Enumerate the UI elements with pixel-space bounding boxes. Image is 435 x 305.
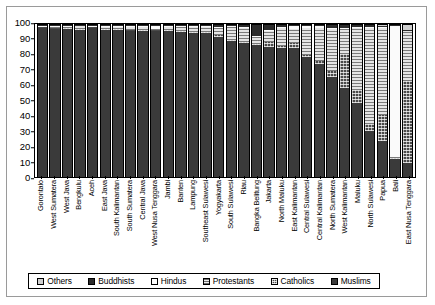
bar-segment <box>302 28 311 55</box>
bar-column[interactable] <box>251 24 262 177</box>
legend-item[interactable]: Hindus <box>151 277 186 285</box>
x-axis-tick-mark <box>168 176 169 179</box>
x-axis-tick: Gorontalo <box>36 179 47 271</box>
bar-column[interactable] <box>213 24 224 177</box>
bar-segment <box>189 26 198 27</box>
x-axis-tick-mark <box>206 176 207 179</box>
x-axis-tick: North Sulawesi <box>365 179 376 271</box>
bar-segment <box>151 25 160 29</box>
bar-segment <box>264 24 273 25</box>
x-axis-tick-label: Banten <box>177 180 184 203</box>
bar-segment <box>227 27 236 40</box>
x-axis-tick-mark <box>41 176 42 179</box>
bar-segment <box>315 64 324 177</box>
bar-column[interactable] <box>351 24 362 177</box>
bar-column[interactable] <box>37 24 48 177</box>
bar-segment <box>214 28 223 35</box>
bar-column[interactable] <box>137 24 148 177</box>
bar-column[interactable] <box>175 24 186 177</box>
bar-column[interactable] <box>200 24 211 177</box>
x-axis-tick: West Sumatera <box>48 179 59 271</box>
bar-column[interactable] <box>74 24 85 177</box>
bar-column[interactable] <box>301 24 312 177</box>
bar-segment <box>63 25 72 26</box>
bar-column[interactable] <box>62 24 73 177</box>
bar-segment <box>214 27 223 29</box>
x-axis-tick-label: East Nusa Tenggara <box>405 180 412 244</box>
bar-column[interactable] <box>226 24 237 177</box>
bar-segment <box>38 24 47 25</box>
bar-segment <box>138 30 147 32</box>
x-axis: GorontaloWest SumateraWest JavaBengkuluA… <box>34 179 416 271</box>
bar-column[interactable] <box>87 24 98 177</box>
x-axis-tick: Lampung <box>188 179 199 271</box>
x-axis-tick-mark <box>105 176 106 179</box>
bar-segment <box>75 26 84 29</box>
x-axis-tick-mark <box>295 176 296 179</box>
bar-column[interactable] <box>150 24 161 177</box>
bar-segment <box>201 26 210 27</box>
bar-column[interactable] <box>339 24 350 177</box>
bar-segment <box>340 24 349 25</box>
x-axis-tick: East Java <box>99 179 110 271</box>
bar-column[interactable] <box>402 24 413 177</box>
legend-swatch-others <box>37 278 44 285</box>
x-axis-tick: Central Sulawesi <box>302 179 313 271</box>
x-axis-tick-mark <box>307 176 308 179</box>
bar-segment <box>189 24 198 25</box>
bar-segment <box>352 103 361 178</box>
bar-segment <box>352 25 361 26</box>
legend-item[interactable]: Catholics <box>271 277 315 285</box>
bar-segment <box>189 33 198 177</box>
bar-column[interactable] <box>389 24 400 177</box>
legend-label: Muslims <box>341 277 371 285</box>
bar-segment <box>390 158 399 159</box>
bar-segment <box>126 24 135 25</box>
x-axis-tick: South Sulawesi <box>226 179 237 271</box>
bar-column[interactable] <box>49 24 60 177</box>
bar-column[interactable] <box>288 24 299 177</box>
bar-column[interactable] <box>125 24 136 177</box>
bar-segment <box>239 25 248 27</box>
bar-column[interactable] <box>377 24 388 177</box>
bar-segment <box>252 45 261 177</box>
bar-segment <box>390 157 399 158</box>
legend-item[interactable]: Muslims <box>331 277 371 285</box>
bar-segment <box>113 25 122 26</box>
bar-column[interactable] <box>314 24 325 177</box>
x-axis-tick-label: Jambi <box>164 180 171 199</box>
bar-segment <box>264 30 273 31</box>
x-axis-tick: Central Kalimantan <box>314 179 325 271</box>
bar-segment <box>352 27 361 90</box>
bar-column[interactable] <box>238 24 249 177</box>
x-axis-tick-label: West Java <box>63 180 70 213</box>
bar-segment <box>164 25 173 26</box>
bar-segment <box>289 24 298 25</box>
bar-column[interactable] <box>188 24 199 177</box>
legend-label: Hindus <box>161 277 186 285</box>
bar-column[interactable] <box>326 24 337 177</box>
x-axis-tick-label: Maluku <box>354 180 361 203</box>
bar-series-container <box>35 24 415 177</box>
bar-segment <box>75 29 84 30</box>
bar-segment <box>289 26 298 29</box>
bar-segment <box>252 24 261 25</box>
bar-segment <box>138 24 147 25</box>
bar-segment <box>277 27 286 46</box>
bar-column[interactable] <box>276 24 287 177</box>
bar-column[interactable] <box>112 24 123 177</box>
legend-item[interactable]: Others <box>37 277 72 285</box>
bar-column[interactable] <box>263 24 274 177</box>
bar-segment <box>340 54 349 88</box>
bar-segment <box>101 27 110 29</box>
bar-column[interactable] <box>364 24 375 177</box>
bar-column[interactable] <box>163 24 174 177</box>
x-axis-tick-mark <box>219 176 220 179</box>
bar-column[interactable] <box>100 24 111 177</box>
bar-segment <box>126 27 135 30</box>
legend-item[interactable]: Buddhists <box>88 277 134 285</box>
bar-segment <box>340 28 349 54</box>
x-axis-tick-label: Papua <box>380 180 387 201</box>
x-axis-tick-mark <box>269 176 270 179</box>
legend-item[interactable]: Protestants <box>203 277 254 285</box>
